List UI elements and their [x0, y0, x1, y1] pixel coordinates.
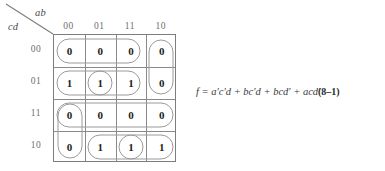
row-header-0: 00: [24, 44, 48, 54]
row-header-3: 10: [24, 140, 48, 150]
column-header-1: 01: [84, 21, 115, 31]
kmap-cell-r0c2: 0: [116, 35, 147, 67]
kmap-cell-r2c2: 0: [116, 99, 147, 131]
row-header-2: 11: [24, 108, 48, 118]
karnaugh-map-grid: 0 0 0 0 1 1 1 0 0 0 0 0 0 1 1 1: [53, 34, 176, 162]
kmap-cell-r2c3: 0: [146, 99, 177, 131]
kmap-axis-corner: ab cd: [0, 0, 56, 36]
kmap-cell-r1c0: 1: [54, 67, 85, 99]
column-header-0: 00: [53, 21, 84, 31]
kmap-cell-r1c2: 1: [116, 67, 147, 99]
kmap-cell-r1c1: 1: [85, 67, 116, 99]
row-header-1: 01: [24, 76, 48, 86]
kmap-cell-r3c2: 1: [116, 131, 147, 163]
kmap-cell-r2c1: 0: [85, 99, 116, 131]
boolean-equation: f = a′c′d + bc′d + bcd′ + acd′: [196, 86, 320, 97]
kmap-cell-r0c1: 0: [85, 35, 116, 67]
row-variable-label: cd: [8, 21, 18, 32]
kmap-cell-r0c3: 0: [146, 35, 177, 67]
kmap-cell-r1c3: 0: [146, 67, 177, 99]
kmap-cell-r2c0: 0: [54, 99, 85, 131]
kmap-cell-r0c0: 0: [54, 35, 85, 67]
column-header-2: 11: [115, 21, 146, 31]
column-header-3: 10: [145, 21, 176, 31]
kmap-cell-r3c3: 1: [146, 131, 177, 163]
equation-number: (8–1): [318, 86, 340, 97]
column-variable-label: ab: [35, 7, 46, 18]
kmap-cell-r3c0: 0: [54, 131, 85, 163]
kmap-cell-r3c1: 1: [85, 131, 116, 163]
